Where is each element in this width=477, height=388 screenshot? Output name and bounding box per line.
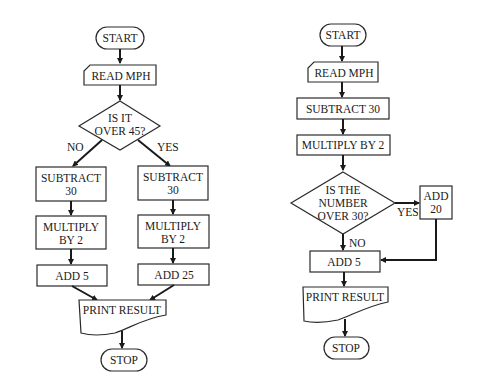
left-yes-add: ADD 25 xyxy=(138,264,209,285)
left-flowchart: START READ MPH IS IT OVER 45? NO YES SUB… xyxy=(36,27,209,371)
left-decision: IS IT OVER 45? xyxy=(79,101,160,150)
svg-text:IS IT: IS IT xyxy=(108,112,132,124)
svg-text:START: START xyxy=(326,29,361,41)
svg-text:START: START xyxy=(103,32,138,44)
svg-text:SUBTRACT: SUBTRACT xyxy=(41,172,101,184)
svg-text:ADD 5: ADD 5 xyxy=(327,256,361,268)
left-read-input: READ MPH xyxy=(84,65,156,85)
left-no-add: ADD 5 xyxy=(37,265,107,286)
left-no-subtract: SUBTRACT 30 xyxy=(36,167,106,201)
right-flowchart: START READ MPH SUBTRACT 30 MULTIPLY BY 2… xyxy=(291,24,452,359)
svg-text:SUBTRACT: SUBTRACT xyxy=(143,171,203,183)
left-stop-terminal: STOP xyxy=(101,349,147,371)
svg-text:READ MPH: READ MPH xyxy=(314,67,373,79)
right-add-5: ADD 5 xyxy=(310,251,380,272)
right-yes-label: YES xyxy=(397,206,419,218)
svg-text:PRINT RESULT: PRINT RESULT xyxy=(83,304,161,316)
svg-text:IS THE: IS THE xyxy=(325,184,360,196)
svg-text:BY 2: BY 2 xyxy=(59,234,83,246)
right-no-label: NO xyxy=(349,237,366,249)
svg-text:BY 2: BY 2 xyxy=(161,233,185,245)
svg-text:STOP: STOP xyxy=(332,342,360,354)
left-no-multiply: MULTIPLY BY 2 xyxy=(36,216,106,249)
svg-text:OVER 30?: OVER 30? xyxy=(318,210,369,222)
right-start-terminal: START xyxy=(320,24,366,46)
svg-text:SUBTRACT 30: SUBTRACT 30 xyxy=(306,103,380,115)
left-no-label: NO xyxy=(67,141,84,153)
svg-text:OVER 45?: OVER 45? xyxy=(95,125,146,137)
flowcharts: START READ MPH IS IT OVER 45? NO YES SUB… xyxy=(0,0,477,388)
svg-text:ADD 25: ADD 25 xyxy=(154,269,194,281)
right-subtract: SUBTRACT 30 xyxy=(297,98,389,119)
svg-text:30: 30 xyxy=(167,184,179,196)
svg-text:20: 20 xyxy=(430,203,442,215)
svg-text:30: 30 xyxy=(65,185,77,197)
svg-text:STOP: STOP xyxy=(110,354,138,366)
left-yes-subtract: SUBTRACT 30 xyxy=(138,166,208,200)
svg-text:MULTIPLY BY 2: MULTIPLY BY 2 xyxy=(302,139,385,151)
right-print-output: PRINT RESULT xyxy=(303,287,388,322)
right-decision: IS THE NUMBER OVER 30? xyxy=(291,172,395,234)
svg-text:READ MPH: READ MPH xyxy=(91,70,150,82)
left-print-output: PRINT RESULT xyxy=(79,300,166,335)
svg-text:ADD 5: ADD 5 xyxy=(55,270,89,282)
right-multiply: MULTIPLY BY 2 xyxy=(297,135,390,155)
right-read-input: READ MPH xyxy=(308,62,378,82)
right-stop-terminal: STOP xyxy=(324,337,369,359)
svg-text:NUMBER: NUMBER xyxy=(318,197,368,209)
svg-text:MULTIPLY: MULTIPLY xyxy=(43,221,100,233)
svg-text:ADD: ADD xyxy=(424,190,449,202)
left-start-terminal: START xyxy=(96,27,144,49)
left-yes-multiply: MULTIPLY BY 2 xyxy=(138,215,209,248)
svg-text:MULTIPLY: MULTIPLY xyxy=(145,220,202,232)
svg-text:PRINT RESULT: PRINT RESULT xyxy=(306,291,384,303)
right-add-20: ADD 20 xyxy=(420,186,452,219)
left-yes-label: YES xyxy=(157,141,179,153)
